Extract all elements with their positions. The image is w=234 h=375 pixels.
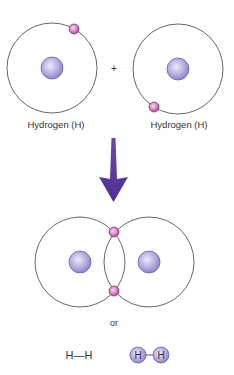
ball-atom-left-label: H [134, 350, 141, 361]
plus-sign: + [111, 63, 117, 74]
reaction-arrow-icon [99, 138, 128, 202]
nucleus [69, 251, 91, 273]
or-label: or [110, 318, 118, 328]
nucleus [41, 57, 63, 79]
hydrogen-atom-right [133, 24, 223, 114]
ball-model: H H [130, 347, 169, 363]
electron [69, 24, 79, 34]
ball-atom-right-label: H [157, 350, 164, 361]
shared-electron [109, 227, 119, 237]
nucleus [167, 58, 189, 80]
electron [149, 102, 159, 112]
hydrogen-molecule [35, 217, 194, 307]
shared-electron [109, 286, 119, 296]
atom-label-right: Hydrogen (H) [150, 119, 207, 130]
structural-formula: H—H [66, 349, 93, 361]
atom-label-left: Hydrogen (H) [27, 119, 84, 130]
hydrogen-atom-left [7, 23, 97, 113]
nucleus [138, 251, 160, 273]
hydrogen-bond-diagram: + Hydrogen (H) Hydrogen (H) or H—H H H [0, 0, 234, 375]
